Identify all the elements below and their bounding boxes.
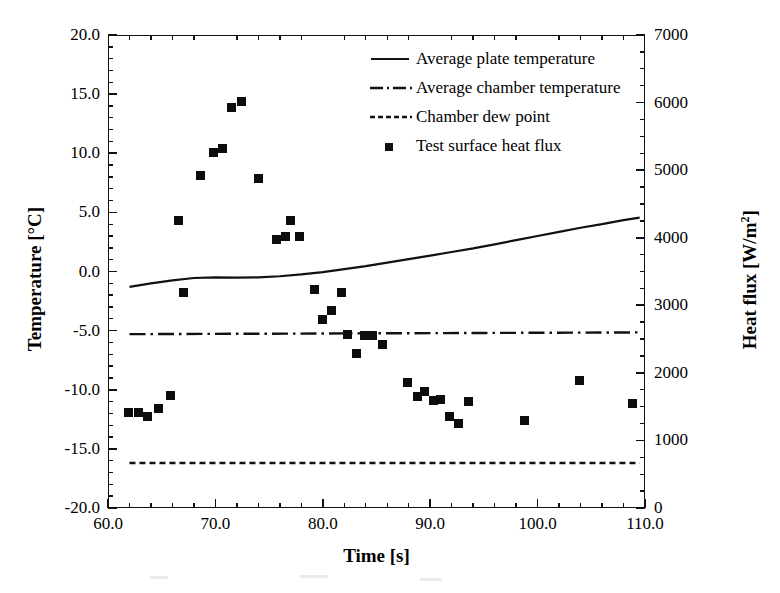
chart-figure: -20.0-15.0-10.0-5.00.05.010.015.020.0010… (0, 0, 780, 593)
data-point-test-surface-heat-flux (286, 216, 295, 225)
y2-axis-title-text: Heat flux [W/m2] (740, 210, 761, 349)
data-point-test-surface-heat-flux (124, 408, 133, 417)
data-point-test-surface-heat-flux (318, 315, 327, 324)
data-point-test-surface-heat-flux (378, 340, 387, 349)
legend-item-average-chamber-temperature: Average chamber temperature (368, 73, 668, 102)
legend-label-chamber-dew-point: Chamber dew point (416, 107, 550, 127)
x-axis-tick-label: 100.0 (498, 515, 578, 532)
legend-item-chamber-dew-point: Chamber dew point (368, 102, 668, 131)
chart-legend: Average plate temperature Average chambe… (368, 44, 668, 160)
data-point-test-surface-heat-flux (327, 306, 336, 315)
y-axis-tick-label: 15.0 (14, 85, 100, 102)
data-point-test-surface-heat-flux (134, 408, 143, 417)
data-point-test-surface-heat-flux (209, 148, 218, 157)
data-point-test-surface-heat-flux (343, 330, 352, 339)
x-axis-tick-label: 60.0 (68, 515, 148, 532)
data-point-test-surface-heat-flux (154, 404, 163, 413)
data-point-test-surface-heat-flux (403, 378, 412, 387)
y2-axis-tick-label: 1000 (654, 431, 740, 448)
y-axis-title: Temperature [°C] (24, 159, 46, 399)
y2-axis-tick-label: 7000 (654, 26, 740, 43)
data-point-test-surface-heat-flux (143, 412, 152, 421)
data-point-test-surface-heat-flux (295, 232, 304, 241)
y2-axis-tick-label: 3000 (654, 296, 740, 313)
x-axis-tick-label: 70.0 (175, 515, 255, 532)
data-point-test-surface-heat-flux (310, 285, 319, 294)
dash-dot-line-icon (368, 80, 412, 96)
data-point-test-surface-heat-flux (166, 391, 175, 400)
data-point-test-surface-heat-flux (174, 216, 183, 225)
data-point-test-surface-heat-flux (352, 349, 361, 358)
data-point-test-surface-heat-flux (368, 331, 377, 340)
x-axis-tick-label: 110.0 (605, 515, 685, 532)
data-point-test-surface-heat-flux (227, 103, 236, 112)
filled-square-marker-icon (368, 138, 412, 154)
y2-axis-tick-label: 4000 (654, 229, 740, 246)
dashed-line-icon (368, 109, 412, 125)
data-point-test-surface-heat-flux (420, 387, 429, 396)
y2-axis-tick-label: 2000 (654, 364, 740, 381)
x-axis-tick-label: 90.0 (390, 515, 470, 532)
scan-speckle (150, 576, 168, 579)
x-axis-title: Time [s] (108, 545, 645, 567)
data-point-test-surface-heat-flux (196, 171, 205, 180)
data-point-test-surface-heat-flux (520, 416, 529, 425)
solid-line-icon (368, 51, 412, 67)
data-point-test-surface-heat-flux (436, 395, 445, 404)
data-point-test-surface-heat-flux (337, 288, 346, 297)
data-point-test-surface-heat-flux (218, 144, 227, 153)
legend-label-average-chamber-temperature: Average chamber temperature (416, 78, 621, 98)
data-point-test-surface-heat-flux (237, 97, 246, 106)
data-point-test-surface-heat-flux (254, 174, 263, 183)
x-axis-tick-label: 80.0 (283, 515, 363, 532)
y-axis-tick-label: -15.0 (14, 440, 100, 457)
legend-item-test-surface-heat-flux: Test surface heat flux (368, 131, 668, 160)
y2-axis-title: Heat flux [W/m2] (738, 160, 761, 400)
series-line-average-plate-temperature (129, 218, 639, 287)
legend-item-average-plate-temperature: Average plate temperature (368, 44, 668, 73)
y-axis-tick-label: -20.0 (14, 499, 100, 516)
scan-speckle (420, 578, 442, 581)
data-point-test-surface-heat-flux (575, 376, 584, 385)
y2-axis-tick-label: 0 (654, 499, 740, 516)
data-point-test-surface-heat-flux (628, 399, 637, 408)
scan-speckle (300, 575, 328, 578)
data-point-test-surface-heat-flux (281, 232, 290, 241)
series-line-average-chamber-temperature (129, 332, 639, 334)
y2-axis-tick-label: 5000 (654, 161, 740, 178)
legend-label-average-plate-temperature: Average plate temperature (416, 49, 595, 69)
legend-label-test-surface-heat-flux: Test surface heat flux (416, 136, 562, 156)
data-point-test-surface-heat-flux (179, 288, 188, 297)
y-axis-tick-label: 20.0 (14, 26, 100, 43)
data-point-test-surface-heat-flux (464, 397, 473, 406)
data-point-test-surface-heat-flux (454, 419, 463, 428)
